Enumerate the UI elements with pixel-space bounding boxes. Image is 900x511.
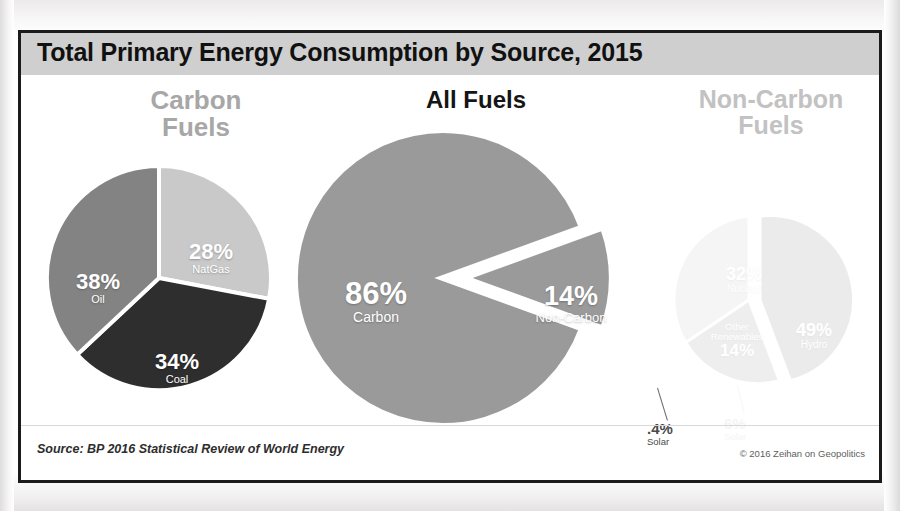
- heading-non-carbon-fuels: Non-Carbon Fuels: [651, 87, 882, 139]
- infographic-frame: Total Primary Energy Consumption by Sour…: [18, 30, 882, 483]
- callout-solar-center-name: Solar: [647, 437, 673, 447]
- callout-solar-non-carbon: 6% Solar: [724, 416, 746, 442]
- footer-divider: [21, 425, 879, 426]
- heading-all-fuels: All Fuels: [351, 88, 601, 113]
- page-title: Total Primary Energy Consumption by Sour…: [37, 38, 642, 67]
- callout-solar-center-pct: .4%: [647, 421, 673, 436]
- pie-non-carbon-svg-wrap: [661, 208, 861, 408]
- source-note: Source: BP 2016 Statistical Review of Wo…: [37, 442, 344, 456]
- slice-hydro: [760, 215, 854, 380]
- pie-chart-carbon-fuels: [39, 158, 279, 398]
- pie-chart-all-fuels: [283, 128, 673, 428]
- scanned-page-background: Total Primary Energy Consumption by Sour…: [0, 0, 900, 511]
- copyright-note: © 2016 Zeihan on Geopolitics: [740, 448, 865, 459]
- slice-natgas: [159, 166, 271, 299]
- callout-solar-right-name: Solar: [724, 432, 746, 442]
- callout-solar-right-pct: 6%: [724, 416, 746, 431]
- heading-carbon-fuels: Carbon Fuels: [81, 87, 311, 141]
